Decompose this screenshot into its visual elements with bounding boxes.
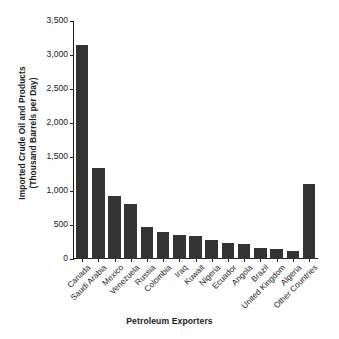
bar-slot [301,21,317,259]
bar-slot [236,21,252,259]
bar[interactable] [108,196,120,258]
bar-slot [187,21,203,259]
bar-slot [106,21,122,259]
bar[interactable] [141,227,153,258]
bar-slot [268,21,284,259]
bar[interactable] [92,168,104,258]
bar[interactable] [173,235,185,258]
bar[interactable] [254,248,266,258]
y-axis-tick-label: 1,000 [46,185,68,195]
bar-series [74,21,317,259]
bar-slot [74,21,90,259]
bar[interactable] [303,184,315,259]
y-axis-title: Imported Crude Oil and Products (Thousan… [17,66,39,199]
bar[interactable] [189,236,201,258]
bar-slot [155,21,171,259]
y-axis-tick-label: 1,500 [46,151,68,161]
y-axis-tick-mark [70,259,74,260]
y-axis-tick-label: 2,500 [46,83,68,93]
y-axis-tick-label: 0 [63,253,68,263]
bar-slot [139,21,155,259]
y-axis-tick-label: 3,000 [46,49,68,59]
bar-slot [171,21,187,259]
bar[interactable] [287,251,299,259]
bar-slot [220,21,236,259]
x-axis-title: Petroleum Exporters [0,316,339,326]
bar[interactable] [222,243,234,259]
y-axis-tick-label: 500 [54,219,68,229]
bar[interactable] [124,204,136,259]
bar-slot [204,21,220,259]
x-axis-tick-labels: CanadaSaudi ArabiaMexicoVenezuelaRussiaC… [74,261,317,313]
bar[interactable] [205,240,217,259]
bar[interactable] [76,45,88,258]
bar[interactable] [238,244,250,259]
bar-slot [90,21,106,259]
y-axis-tick-label: 3,500 [46,15,68,25]
y-axis-title-line-1: Imported Crude Oil and Products [17,66,27,199]
bar-chart-figure: Imported Crude Oil and Products (Thousan… [0,0,339,339]
y-axis-title-line-2: (Thousand Barrels per Day) [28,77,38,188]
bar[interactable] [157,232,169,258]
y-axis-title-container: Imported Crude Oil and Products (Thousan… [8,0,48,265]
y-axis-tick-label: 2,000 [46,117,68,127]
bar-slot [252,21,268,259]
bar[interactable] [270,249,282,259]
bar-slot [123,21,139,259]
bar-slot [285,21,301,259]
